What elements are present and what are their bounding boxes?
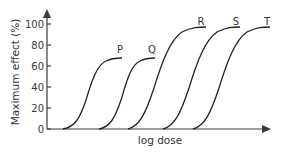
y-axis-arrow-icon xyxy=(43,9,51,18)
y-tick-labels: 0 20 40 60 80 100 xyxy=(25,19,44,135)
x-axis-label: log dose xyxy=(138,134,182,146)
curve-label-p: P xyxy=(117,44,123,55)
curves xyxy=(63,27,270,129)
curve-label-r: R xyxy=(198,16,205,27)
curve-s xyxy=(163,27,240,129)
dose-response-chart: Maximum effect (%) 0 20 40 60 80 100 log… xyxy=(0,0,286,153)
y-tick-100: 100 xyxy=(25,19,44,30)
curve-t xyxy=(193,27,270,129)
curve-label-t: T xyxy=(263,16,271,27)
curve-r xyxy=(128,27,206,129)
y-tick-80: 80 xyxy=(31,40,44,51)
y-axis: 0 20 40 60 80 100 xyxy=(25,9,51,135)
curve-labels: P Q R S T xyxy=(117,16,271,55)
y-tick-0: 0 xyxy=(38,124,44,135)
x-axis-arrow-icon xyxy=(262,125,271,133)
y-axis-label: Maximum effect (%) xyxy=(9,19,21,126)
y-tick-60: 60 xyxy=(31,61,44,72)
y-tick-20: 20 xyxy=(31,103,44,114)
curve-q xyxy=(99,58,155,129)
x-axis xyxy=(47,125,271,133)
curve-label-s: S xyxy=(233,16,239,27)
y-tick-40: 40 xyxy=(31,82,44,93)
curve-label-q: Q xyxy=(148,44,156,55)
